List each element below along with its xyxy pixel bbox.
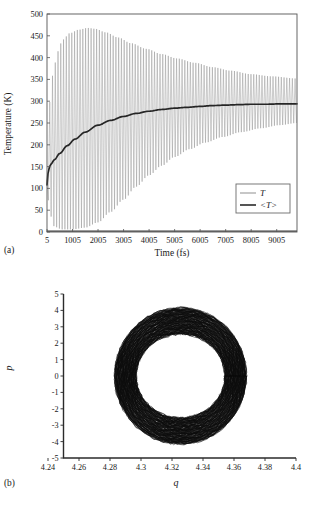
x-tick-label: 9005 <box>268 236 285 245</box>
panel-b-x-axis-title: q <box>174 477 179 488</box>
y-tick-label: 200 <box>30 141 43 150</box>
y-tick-label: -4 <box>52 438 59 447</box>
panel-a-legend: T<T> <box>236 184 290 213</box>
y-tick-label: -5 <box>52 454 59 463</box>
x-tick-label: 4.34 <box>196 463 210 472</box>
x-tick-label: 4.28 <box>103 463 117 472</box>
x-tick-label: 5005 <box>166 236 183 245</box>
x-tick-label: 4.38 <box>258 463 272 472</box>
x-tick-label: 2005 <box>90 236 107 245</box>
y-tick-label: 450 <box>30 32 43 41</box>
x-tick-label: 6005 <box>192 236 209 245</box>
x-tick-label: 4.36 <box>227 463 241 472</box>
legend-label-average-temperature: <T> <box>260 200 277 210</box>
y-tick-label: 300 <box>30 97 43 106</box>
panel-b-y-axis-title: p <box>3 366 14 372</box>
y-tick-label: 150 <box>30 163 43 172</box>
panel-b-svg: 4.244.264.284.34.324.344.364.384.4 -5-4-… <box>0 258 309 506</box>
y-tick-label: -2 <box>52 405 59 414</box>
x-tick-label: 1005 <box>64 236 81 245</box>
panel-a-y-tick-labels: 050100150200250300350400450500 <box>30 10 43 237</box>
y-tick-label: 5 <box>54 290 58 299</box>
x-tick-label: 3005 <box>115 236 132 245</box>
panel-a-temperature-vs-time: 5100520053005400550056005700580059005 05… <box>0 0 309 258</box>
y-tick-label: 400 <box>30 54 43 63</box>
y-tick-label: 0 <box>39 228 43 237</box>
panel-b-phase-space: 4.244.264.284.34.324.344.364.384.4 -5-4-… <box>0 258 309 506</box>
x-tick-label: 4.24 <box>41 463 55 472</box>
x-tick-label: 8005 <box>243 236 260 245</box>
panel-a-x-axis-title: Time (fs) <box>155 248 190 258</box>
x-tick-label: 4005 <box>141 236 158 245</box>
panel-a-x-tick-labels: 5100520053005400550056005700580059005 <box>45 236 285 245</box>
y-tick-label: 2 <box>54 339 58 348</box>
y-tick-label: 0 <box>54 372 58 381</box>
panel-b-y-tick-labels: -5-4-3-2-1012345 <box>52 290 59 463</box>
x-tick-label: 7005 <box>217 236 234 245</box>
figure-two-panel: 5100520053005400550056005700580059005 05… <box>0 0 309 506</box>
y-tick-label: 4 <box>54 306 58 315</box>
y-tick-label: 500 <box>30 10 43 19</box>
y-tick-label: 1 <box>54 356 58 365</box>
x-tick-label: 4.4 <box>291 463 301 472</box>
x-tick-label: 4.26 <box>72 463 86 472</box>
phase-space-orbit-band <box>114 307 247 445</box>
panel-b-label: (b) <box>4 478 15 489</box>
panel-a-y-axis-title: Temperature (K) <box>3 93 14 156</box>
x-tick-label: 4.32 <box>165 463 179 472</box>
y-tick-label: 3 <box>54 323 58 332</box>
y-tick-label: 100 <box>30 184 43 193</box>
y-tick-label: -1 <box>52 388 59 397</box>
panel-a-svg: 5100520053005400550056005700580059005 05… <box>0 0 309 258</box>
y-tick-label: -3 <box>52 421 59 430</box>
y-tick-label: 50 <box>35 206 43 215</box>
panel-b-x-tick-labels: 4.244.264.284.34.324.344.364.384.4 <box>41 463 301 472</box>
y-tick-label: 350 <box>30 75 43 84</box>
y-tick-label: 250 <box>30 119 43 128</box>
panel-a-label: (a) <box>4 245 14 256</box>
x-tick-label: 4.3 <box>136 463 146 472</box>
x-tick-label: 5 <box>45 236 49 245</box>
